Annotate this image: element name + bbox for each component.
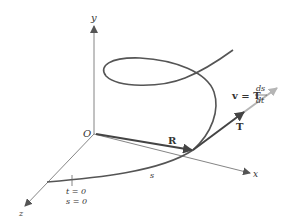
space-curve-diagram: y O z x R T v = T ds dt s t = 0 s = 0 [0,0,288,221]
z-axis-label: z [18,209,24,218]
origin-label: O [83,128,91,139]
position-vector-label: R [168,135,177,146]
arc-length-label: s [150,171,154,180]
y-axis-label: y [90,12,97,23]
diagram-canvas: y O z x R T v = T ds dt s t = 0 s = 0 [0,0,288,221]
start-time-label: t = 0 [66,187,86,196]
space-curve [47,50,233,182]
start-arclength-label: s = 0 [66,197,87,206]
velocity-fraction-numerator: ds [256,84,265,93]
position-vector-R [96,134,192,150]
tangent-vector-label: T [236,121,244,132]
velocity-fraction-denominator: dt [256,96,265,105]
x-axis-label: x [253,169,258,179]
